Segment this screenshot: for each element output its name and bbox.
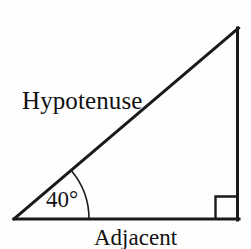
angle-measure-label: 40° xyxy=(46,188,78,211)
hypotenuse-label: Hypotenuse xyxy=(22,88,142,113)
trigonometry-figure: Hypotenuse 40° Adjacent xyxy=(0,0,251,249)
right-angle-marker xyxy=(216,197,238,219)
right-triangle-drawing xyxy=(0,0,251,249)
adjacent-label: Adjacent xyxy=(94,226,177,249)
